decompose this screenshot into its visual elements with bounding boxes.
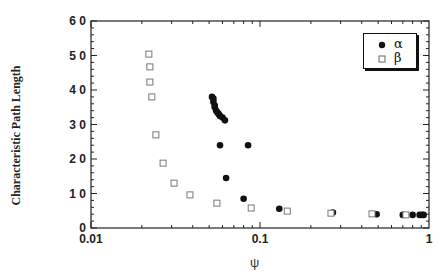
data-point-alpha [222,117,229,124]
data-point-alpha [420,212,427,219]
legend-label-beta: β [394,50,402,65]
filled-circle-icon [372,38,392,52]
x-tick-label: 1 [426,232,433,246]
data-point-beta [214,200,220,206]
data-point-beta [153,132,159,138]
data-point-beta [149,94,155,100]
data-point-alpha [217,142,224,149]
legend: α β [363,33,417,69]
data-point-beta [160,160,166,166]
data-point-beta [146,51,152,57]
x-tick-label: 0.1 [252,232,269,246]
legend-label-alpha: α [394,36,403,51]
data-point-alpha [223,175,230,182]
data-point-beta [147,79,153,85]
data-point-beta [147,64,153,70]
data-point-beta [171,180,177,186]
y-tick-label: 6 0 [69,14,86,28]
y-tick-label: 1 0 [69,187,86,201]
data-point-alpha [409,212,416,219]
data-point-alpha [276,205,283,212]
open-square-icon [372,52,392,66]
y-axis-label: Characteristic Path Length [6,40,28,230]
data-point-beta [328,210,334,216]
data-point-beta [403,212,409,218]
data-point-beta [284,208,290,214]
data-point-alpha [245,142,252,149]
legend-item-beta: β [364,52,416,66]
y-tick-label: 5 0 [69,49,86,63]
x-tick-label: 0.01 [79,232,103,246]
data-point-beta [369,211,375,217]
x-axis-label: ψ [250,255,259,270]
data-point-alpha [240,195,247,202]
y-tick-label: 4 0 [69,83,86,97]
y-tick-label: 3 0 [69,118,86,132]
legend-item-alpha: α [364,38,416,52]
data-point-beta [248,205,254,211]
y-tick-label: 2 0 [69,152,86,166]
data-point-beta [187,192,193,198]
y-axis-label-text: Characteristic Path Length [10,65,25,205]
